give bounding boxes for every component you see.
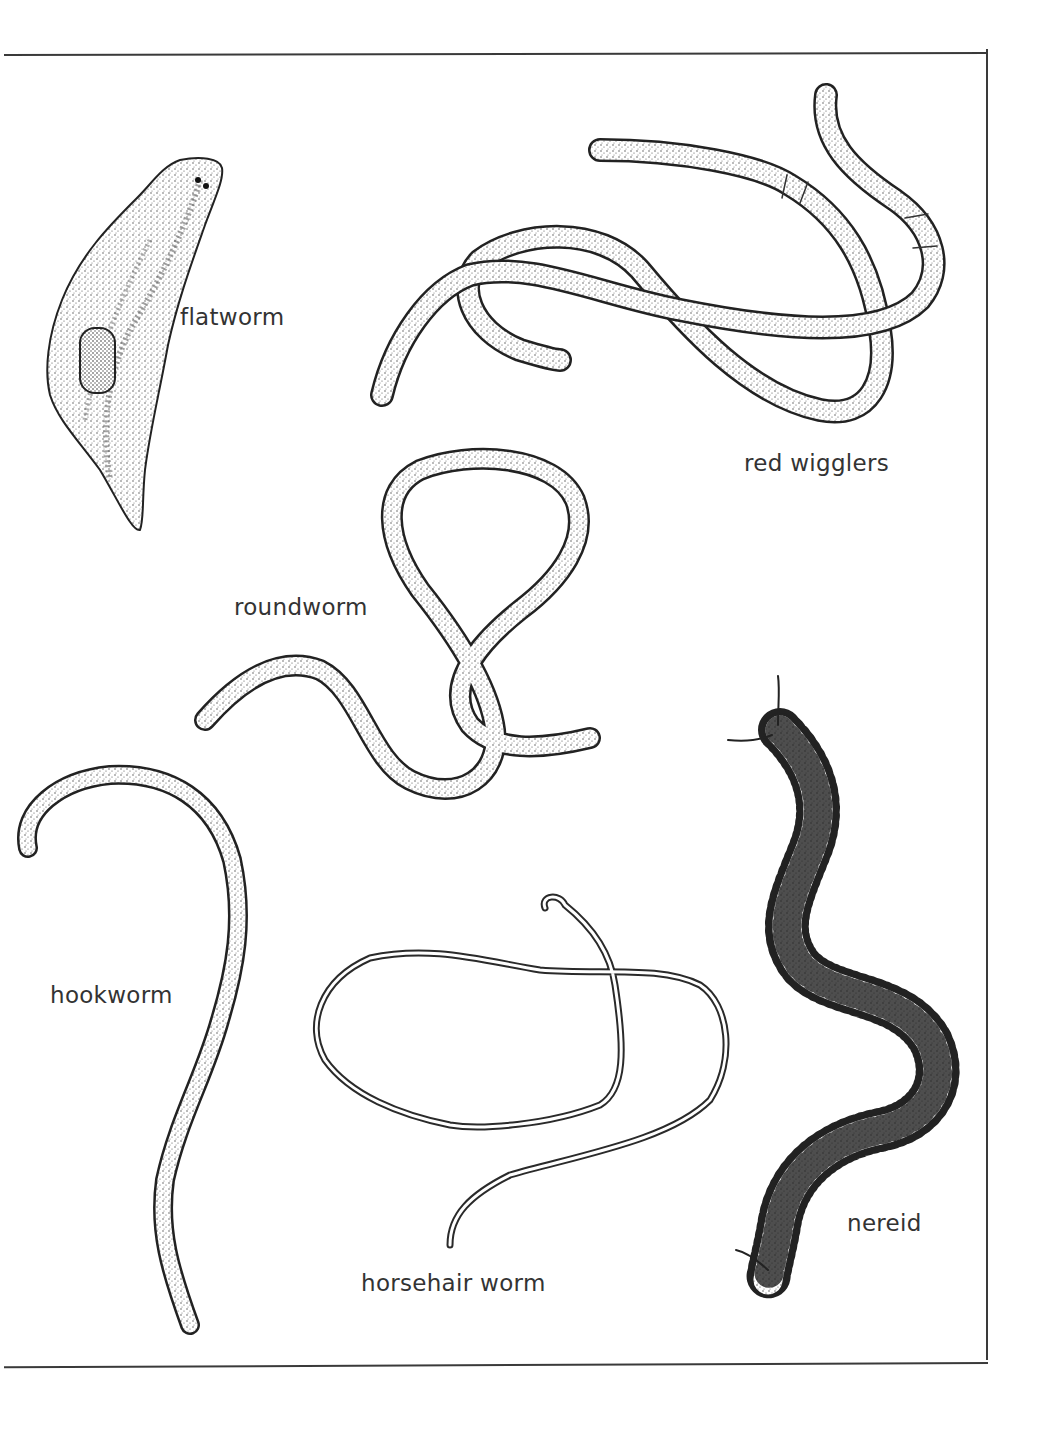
- illustration-page: flatworm red wigglers roundworm hookworm…: [0, 0, 1047, 1434]
- hookworm-drawing: [27, 775, 238, 1325]
- label-nereid: nereid: [847, 1212, 922, 1235]
- label-roundworm: roundworm: [234, 596, 368, 619]
- label-horsehair-worm: horsehair worm: [361, 1272, 546, 1295]
- flatworm-drawing: [47, 158, 222, 530]
- horsehair-worm-drawing: [316, 897, 726, 1245]
- label-red-wigglers: red wigglers: [744, 452, 889, 475]
- nereid-drawing: [728, 676, 938, 1280]
- label-hookworm: hookworm: [50, 984, 173, 1007]
- roundworm-drawing: [205, 459, 590, 789]
- label-flatworm: flatworm: [180, 306, 284, 329]
- red-wigglers-drawing: [382, 95, 937, 412]
